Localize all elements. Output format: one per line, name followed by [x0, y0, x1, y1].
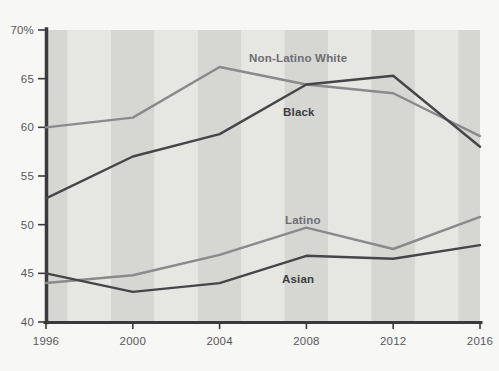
chart-canvas: 70%656055504540 199620002004200820122016… — [0, 0, 499, 371]
background-band — [372, 30, 415, 322]
x-tick-label: 2008 — [293, 335, 319, 347]
series-label: Latino — [285, 214, 321, 226]
line-chart: 70%656055504540 199620002004200820122016… — [0, 0, 499, 371]
y-axis-ticks: 70%656055504540 — [10, 24, 46, 328]
y-tick-label: 40 — [21, 316, 34, 328]
background-band — [111, 30, 154, 322]
x-tick-label: 2004 — [206, 335, 233, 347]
y-tick-label: 55 — [21, 170, 34, 182]
x-tick-label: 2016 — [467, 335, 493, 347]
background-band — [458, 30, 480, 322]
y-tick-label: 65 — [21, 73, 34, 85]
x-axis-ticks: 199620002004200820122016 — [33, 322, 493, 347]
y-tick-label: 70% — [10, 24, 34, 36]
background-band — [415, 30, 458, 322]
series-label: Asian — [282, 273, 314, 285]
x-tick-label: 2000 — [120, 335, 146, 347]
y-tick-label: 50 — [21, 219, 34, 231]
series-label: Non-Latino White — [249, 52, 347, 64]
x-tick-label: 1996 — [33, 335, 59, 347]
x-tick-label: 2012 — [380, 335, 406, 347]
background-band — [328, 30, 371, 322]
series-label: Black — [283, 106, 315, 118]
y-tick-label: 45 — [21, 267, 34, 279]
background-band — [155, 30, 198, 322]
y-tick-label: 60 — [21, 121, 34, 133]
